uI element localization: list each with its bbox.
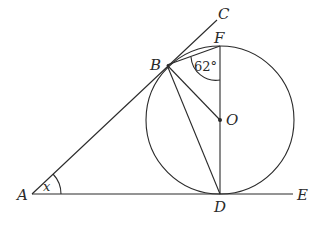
label-d: D [213,198,226,216]
geometry-diagram: A B C F O D E 62° x [0,0,322,226]
angle-label-x: x [43,179,51,194]
angle-label-62: 62° [194,59,217,74]
line-ac [32,20,217,194]
angle-arc-a [53,174,61,194]
chord-bd [167,65,220,194]
center-point-o [218,118,222,122]
label-a: A [15,186,28,204]
label-f: F [213,29,225,47]
label-o: O [226,111,238,129]
label-e: E [296,186,308,204]
label-c: C [218,5,230,23]
label-b: B [149,56,161,74]
